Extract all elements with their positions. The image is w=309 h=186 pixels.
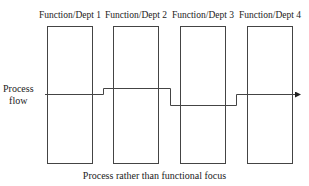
dept-label-1: Function/Dept 1: [35, 11, 105, 21]
process-flow-label-line1: Process: [3, 83, 34, 95]
process-diagram: [0, 0, 309, 186]
dept-box-2: [114, 27, 159, 164]
diagram-caption: Process rather than functional focus: [0, 170, 309, 181]
dept-box-3: [181, 27, 226, 164]
process-flow-line: [45, 89, 300, 106]
dept-label-3: Function/Dept 3: [168, 11, 238, 21]
dept-label-4: Function/Dept 4: [235, 11, 305, 21]
process-flow-label-line2: flow: [3, 95, 34, 107]
dept-label-2: Function/Dept 2: [101, 11, 171, 21]
process-flow-label: Process flow: [3, 83, 34, 107]
